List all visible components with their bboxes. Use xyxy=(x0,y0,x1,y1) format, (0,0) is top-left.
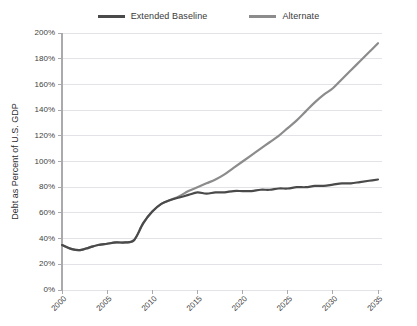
plot-area: 0%20%40%60%80%100%120%140%160%180%200% 2… xyxy=(0,0,417,326)
series-lines xyxy=(62,43,378,250)
axis-lines xyxy=(58,33,382,294)
y-axis-tick-label: 160% xyxy=(35,80,55,89)
y-axis-label: Debt as Percent of U.S. GDP xyxy=(10,103,20,220)
chart-svg: 0%20%40%60%80%100%120%140%160%180%200% 2… xyxy=(0,0,417,326)
y-axis-tick-labels: 0%20%40%60%80%100%120%140%160%180%200% xyxy=(35,28,55,294)
y-axis-tick-label: 100% xyxy=(35,157,55,166)
x-axis-tick-label: 2010 xyxy=(140,294,159,313)
x-axis-tick-label: 2030 xyxy=(320,294,339,313)
x-axis-tick-label: 2000 xyxy=(49,294,68,313)
x-axis-tick-label: 2035 xyxy=(365,294,384,313)
x-axis-tick-label: 2005 xyxy=(95,294,114,313)
y-axis-tick-label: 200% xyxy=(35,28,55,37)
y-axis-tick-label: 180% xyxy=(35,54,55,63)
y-axis-tick-label: 120% xyxy=(35,131,55,140)
gridlines xyxy=(62,33,382,264)
y-axis-tick-label: 40% xyxy=(39,234,55,243)
x-axis-tick-label: 2015 xyxy=(185,294,204,313)
y-axis-tick-label: 140% xyxy=(35,105,55,114)
y-axis-tick-label: 0% xyxy=(43,285,55,294)
y-axis-tick-label: 60% xyxy=(39,208,55,217)
series-line-extended-baseline xyxy=(62,179,378,250)
y-axis-tick-label: 20% xyxy=(39,259,55,268)
x-axis-tick-labels: 20002005201020152020202520302035 xyxy=(49,294,384,313)
y-axis-tick-label: 80% xyxy=(39,182,55,191)
x-axis-tick-label: 2025 xyxy=(275,294,294,313)
x-axis-tick-label: 2020 xyxy=(230,294,249,313)
series-line-alternate xyxy=(62,43,378,250)
chart-container: Extended Baseline Alternate 0%20%40%60%8… xyxy=(0,0,417,326)
